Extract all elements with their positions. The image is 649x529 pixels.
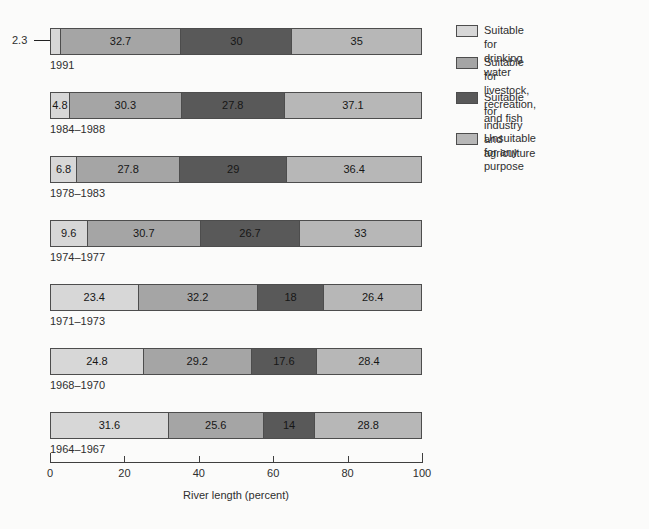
bar-segment: 26.4 bbox=[323, 285, 421, 310]
segment-value-label: 6.8 bbox=[56, 164, 71, 175]
bar-segment: 36.4 bbox=[286, 157, 421, 182]
bar-segment: 37.1 bbox=[284, 93, 421, 118]
bar-row: 24.829.217.628.41968–1970 bbox=[50, 348, 422, 375]
segment-value-label: 29 bbox=[227, 164, 239, 175]
bar-row: 32.730351991 bbox=[50, 28, 422, 55]
segment-value-label: 32.7 bbox=[110, 36, 131, 47]
bar-segment: 29.2 bbox=[143, 349, 251, 374]
bar-segment: 29 bbox=[179, 157, 286, 182]
bar-segment: 30.7 bbox=[87, 221, 201, 246]
segment-value-label: 26.4 bbox=[362, 292, 383, 303]
bar-row: 4.830.327.837.11984–1988 bbox=[50, 92, 422, 119]
bar-segment: 4.8 bbox=[51, 93, 69, 118]
segment-value-label: 33 bbox=[354, 228, 366, 239]
segment-value-label: 30 bbox=[230, 36, 242, 47]
bar-segment: 32.7 bbox=[60, 29, 181, 54]
bar-segment: 27.8 bbox=[181, 93, 284, 118]
segment-value-label: 26.7 bbox=[239, 228, 260, 239]
bar: 31.625.61428.8 bbox=[50, 412, 422, 439]
x-axis-title: River length (percent) bbox=[50, 489, 422, 501]
bar-segment: 26.7 bbox=[200, 221, 299, 246]
legend-swatch bbox=[456, 25, 478, 37]
x-axis-tick bbox=[50, 453, 51, 463]
bar-segment: 28.8 bbox=[314, 413, 421, 438]
bar-segment: 31.6 bbox=[51, 413, 168, 438]
segment-value-label: 17.6 bbox=[273, 356, 294, 367]
segment-value-label: 9.6 bbox=[61, 228, 76, 239]
bar-segment: 18 bbox=[257, 285, 324, 310]
legend-swatch bbox=[456, 92, 478, 104]
bar: 23.432.21826.4 bbox=[50, 284, 422, 311]
x-axis-tick bbox=[199, 456, 200, 463]
bar: 4.830.327.837.1 bbox=[50, 92, 422, 119]
segment-value-label: 32.2 bbox=[187, 292, 208, 303]
category-label: 1974–1977 bbox=[50, 251, 105, 263]
segment-value-label: 18 bbox=[284, 292, 296, 303]
segment-value-label: 31.6 bbox=[99, 420, 120, 431]
legend-label: Unsuitable for any purpose bbox=[484, 131, 536, 173]
bar-segment: 9.6 bbox=[51, 221, 87, 246]
x-axis-tick-label: 100 bbox=[413, 467, 431, 479]
bar: 6.827.82936.4 bbox=[50, 156, 422, 183]
x-axis-tick bbox=[273, 456, 274, 463]
callout-label: 2.3 bbox=[12, 34, 27, 46]
x-axis-tick bbox=[124, 456, 125, 463]
legend-swatch bbox=[456, 133, 478, 145]
bar-segment: 6.8 bbox=[51, 157, 76, 182]
x-axis-tick-label: 80 bbox=[341, 467, 353, 479]
category-label: 1978–1983 bbox=[50, 187, 105, 199]
bar-segment bbox=[51, 29, 60, 54]
segment-value-label: 35 bbox=[351, 36, 363, 47]
stacked-bar-chart: 2.3 32.7303519914.830.327.837.11984–1988… bbox=[0, 0, 649, 529]
segment-value-label: 14 bbox=[283, 420, 295, 431]
bar-segment: 30.3 bbox=[69, 93, 181, 118]
x-axis-tick bbox=[422, 453, 423, 463]
bar-segment: 23.4 bbox=[51, 285, 138, 310]
bar-row: 23.432.21826.41971–1973 bbox=[50, 284, 422, 311]
bar-row: 31.625.61428.81964–1967 bbox=[50, 412, 422, 439]
bar-segment: 27.8 bbox=[76, 157, 179, 182]
category-label: 1968–1970 bbox=[50, 379, 105, 391]
x-axis: 020406080100 River length (percent) bbox=[50, 453, 422, 513]
bar-segment: 30 bbox=[180, 29, 291, 54]
segment-value-label: 30.7 bbox=[133, 228, 154, 239]
x-axis-tick-label: 0 bbox=[47, 467, 53, 479]
x-axis-tick-label: 60 bbox=[267, 467, 279, 479]
segment-value-label: 27.8 bbox=[222, 100, 243, 111]
bar-segment: 14 bbox=[263, 413, 315, 438]
category-label: 1984–1988 bbox=[50, 123, 105, 135]
segment-value-label: 30.3 bbox=[115, 100, 136, 111]
bar-segment: 24.8 bbox=[51, 349, 143, 374]
legend-swatch bbox=[456, 57, 478, 69]
bar-row: 6.827.82936.41978–1983 bbox=[50, 156, 422, 183]
segment-value-label: 28.4 bbox=[358, 356, 379, 367]
bar: 24.829.217.628.4 bbox=[50, 348, 422, 375]
bar-row: 9.630.726.7331974–1977 bbox=[50, 220, 422, 247]
bar-segment: 32.2 bbox=[138, 285, 257, 310]
bar-segment: 17.6 bbox=[251, 349, 316, 374]
segment-value-label: 28.8 bbox=[357, 420, 378, 431]
segment-value-label: 36.4 bbox=[343, 164, 364, 175]
bar-segment: 28.4 bbox=[316, 349, 421, 374]
bar-segment: 33 bbox=[299, 221, 421, 246]
bar: 32.73035 bbox=[50, 28, 422, 55]
bar-segment: 35 bbox=[291, 29, 421, 54]
segment-value-label: 24.8 bbox=[86, 356, 107, 367]
segment-value-label: 25.6 bbox=[205, 420, 226, 431]
x-axis-tick-label: 40 bbox=[193, 467, 205, 479]
segment-value-label: 37.1 bbox=[342, 100, 363, 111]
bar-segment: 25.6 bbox=[168, 413, 263, 438]
x-axis-tick-label: 20 bbox=[118, 467, 130, 479]
segment-value-label: 4.8 bbox=[52, 100, 67, 111]
bar: 9.630.726.733 bbox=[50, 220, 422, 247]
segment-value-label: 23.4 bbox=[84, 292, 105, 303]
x-axis-line bbox=[50, 462, 422, 463]
x-axis-tick bbox=[348, 456, 349, 463]
category-label: 1971–1973 bbox=[50, 315, 105, 327]
segment-value-label: 27.8 bbox=[117, 164, 138, 175]
segment-value-label: 29.2 bbox=[187, 356, 208, 367]
category-label: 1991 bbox=[50, 59, 74, 71]
